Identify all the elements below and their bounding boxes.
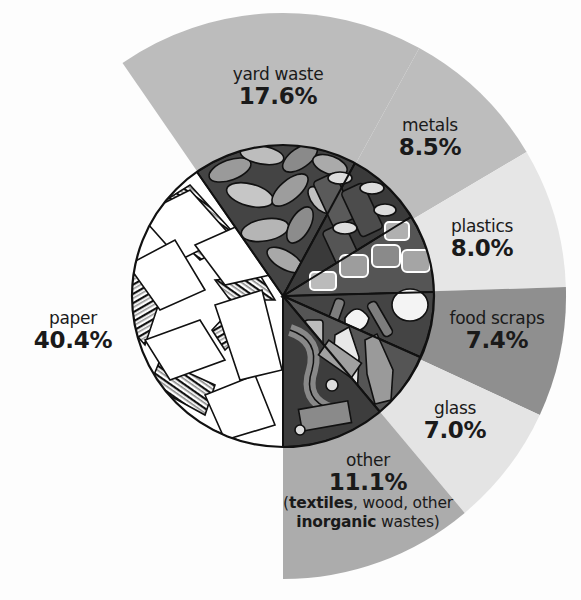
label-plastics-pct: 8.0% <box>437 236 527 260</box>
label-other-name: other <box>268 452 468 470</box>
label-metals-pct: 8.5% <box>385 135 475 159</box>
label-yard-waste: yard waste 17.6% <box>208 66 348 108</box>
label-food-scraps-name: food scraps <box>437 310 557 328</box>
label-metals-name: metals <box>385 117 475 135</box>
label-glass-name: glass <box>415 400 495 418</box>
label-metals: metals 8.5% <box>385 117 475 159</box>
label-yard-waste-pct: 17.6% <box>208 84 348 108</box>
label-other-pct: 11.1% <box>268 470 468 494</box>
label-paper-name: paper <box>28 310 118 328</box>
label-paper: paper 40.4% <box>28 310 118 352</box>
label-plastics: plastics 8.0% <box>437 218 527 260</box>
label-glass: glass 7.0% <box>415 400 495 442</box>
label-food-scraps-pct: 7.4% <box>437 328 557 352</box>
label-food-scraps: food scraps 7.4% <box>437 310 557 352</box>
label-other: other 11.1% (textiles, wood, otherinorga… <box>268 452 468 533</box>
label-plastics-name: plastics <box>437 218 527 236</box>
label-glass-pct: 7.0% <box>415 418 495 442</box>
label-other-note: (textiles, wood, otherinorganic wastes) <box>268 494 468 533</box>
label-yard-waste-name: yard waste <box>208 66 348 84</box>
label-paper-pct: 40.4% <box>28 328 118 352</box>
